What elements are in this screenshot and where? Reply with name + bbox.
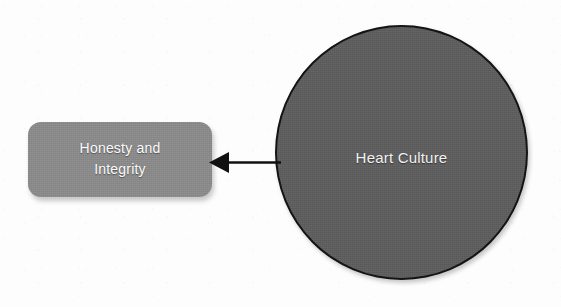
node-label-line-1: Honesty and	[28, 138, 212, 159]
node-honesty-and-integrity-label: Honesty and Integrity	[28, 138, 212, 182]
edge-heart-culture-to-honesty[interactable]	[205, 145, 285, 181]
node-label-line-2: Integrity	[28, 159, 212, 180]
diagram-canvas: Heart Culture Honesty and Integrity	[0, 0, 561, 307]
node-honesty-and-integrity[interactable]: Honesty and Integrity	[28, 122, 212, 197]
arrowhead-icon	[209, 152, 229, 173]
node-heart-culture[interactable]: Heart Culture	[275, 25, 528, 280]
node-heart-culture-label: Heart Culture	[277, 149, 526, 167]
